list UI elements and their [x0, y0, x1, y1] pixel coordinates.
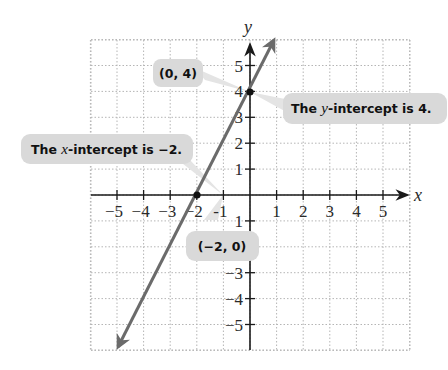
y-tick-label: 1: [235, 212, 244, 231]
x-tick-label: −4: [132, 202, 151, 221]
x-tick-label: 3: [326, 202, 335, 221]
callout-y-intercept: The y-intercept is 4.: [283, 93, 447, 124]
point-x-intercept: [193, 191, 200, 198]
y-tick-label: 5: [235, 57, 244, 76]
callout-point-neg2-0-text: (−2, 0): [198, 239, 246, 254]
callout-point-0-4: (0, 4): [153, 59, 203, 87]
y-tick-label: −5: [225, 316, 243, 335]
callout-point-neg2-0: (−2, 0): [186, 231, 259, 261]
x-tick-label: 4: [352, 202, 361, 221]
y-tick-label: 1: [235, 160, 244, 179]
x-tick-label: 1: [272, 202, 281, 221]
x-axis-label: x: [413, 185, 422, 205]
point-y-intercept: [246, 88, 253, 95]
callout-x-intercept: The x-intercept is −2.: [21, 134, 193, 164]
callout-y-intercept-text: The y-intercept is 4.: [291, 100, 432, 116]
x-tick-label: -1: [213, 202, 227, 221]
y-tick-label: 2: [235, 134, 244, 153]
y-tick-label: 4: [235, 82, 244, 101]
y-axis-label: y: [242, 17, 252, 37]
x-tick-label: 2: [299, 202, 308, 221]
x-tick-label: 5: [379, 202, 388, 221]
y-tick-label: −3: [225, 264, 243, 283]
x-tick-label: −3: [158, 202, 176, 221]
coordinate-plane-chart: −5−4−3−2-112345−5−4−3112345 x y (0, 4) T…: [0, 0, 448, 370]
y-tick-label: −4: [225, 290, 244, 309]
callout-x-intercept-text: The x-intercept is −2.: [31, 141, 182, 157]
x-tick-label: −5: [105, 202, 123, 221]
callout-point-0-4-text: (0, 4): [159, 66, 197, 81]
pointer-x-intercept: [178, 160, 223, 195]
